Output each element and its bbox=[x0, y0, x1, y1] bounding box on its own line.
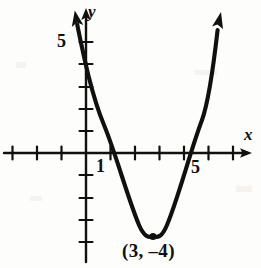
y-axis-label: y bbox=[88, 3, 96, 20]
parabola-right-arrowhead bbox=[212, 12, 223, 29]
graph-canvas bbox=[0, 0, 261, 268]
x-axis-label: x bbox=[244, 126, 253, 143]
parabola-curve bbox=[77, 25, 217, 237]
vertex-coordinate-caption: (3, –4) bbox=[122, 241, 175, 260]
parabola-figure: y x 5 1 5 (3, –4) bbox=[0, 0, 261, 268]
x-tick-label-1: 1 bbox=[96, 157, 105, 175]
y-tick-label-5: 5 bbox=[57, 32, 66, 50]
x-tick-label-5: 5 bbox=[191, 158, 200, 176]
